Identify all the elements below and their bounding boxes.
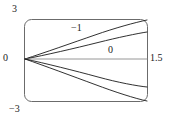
curve-lower-inner (25, 59, 147, 87)
x-axis-min-label: 0 (3, 53, 8, 63)
plot-canvas (0, 0, 170, 117)
x-axis-max-label: 1.5 (150, 53, 163, 63)
curve-label-upper: −1 (71, 23, 82, 33)
curve-upper-inner (25, 32, 147, 59)
y-axis-max-label: 3 (12, 4, 17, 14)
curve-upper-outer (25, 20, 147, 59)
plot-frame (25, 20, 148, 102)
y-axis-min-label: −3 (9, 104, 20, 114)
solution-curve-figure: 3 0 −3 1.5 −1 0 (0, 0, 170, 117)
curve-label-middle: 0 (108, 45, 113, 55)
curve-lower-outer (25, 59, 147, 101)
